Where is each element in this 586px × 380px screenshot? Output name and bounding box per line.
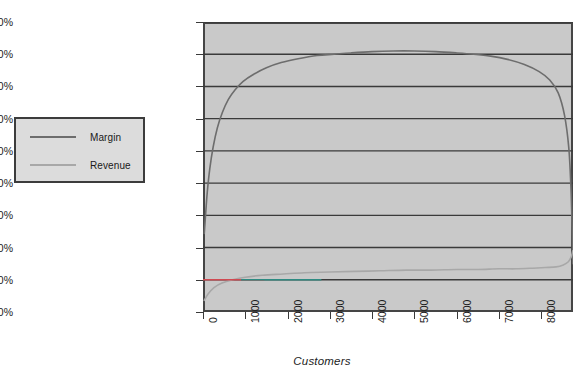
x-tick-mark (414, 312, 415, 319)
chart-figure: Margin Revenue 0%50%100%150%200%250%300%… (0, 0, 586, 380)
x-tick-label: 1000 (249, 300, 261, 323)
x-tick-label: 4000 (376, 300, 388, 323)
x-tick-mark (330, 312, 331, 319)
x-tick-mark (499, 312, 500, 319)
x-tick-label: 3000 (334, 300, 346, 323)
x-tick-label: 0 (207, 317, 219, 323)
x-tick-mark (541, 312, 542, 319)
x-axis-title: Customers (0, 355, 586, 367)
x-tick-mark (203, 312, 204, 319)
x-tick-label: 8000 (545, 300, 557, 323)
x-tick-mark (372, 312, 373, 319)
x-tick-label: 6000 (461, 300, 473, 323)
x-tick-label: 5000 (418, 300, 430, 323)
x-tick-label: 7000 (503, 300, 515, 323)
x-axis: 010002000300040005000600070008000 (0, 0, 586, 380)
x-tick-label: 2000 (292, 300, 304, 323)
x-tick-mark (288, 312, 289, 319)
x-axis-title-text: Customers (293, 355, 350, 367)
x-tick-mark (457, 312, 458, 319)
x-tick-mark (245, 312, 246, 319)
